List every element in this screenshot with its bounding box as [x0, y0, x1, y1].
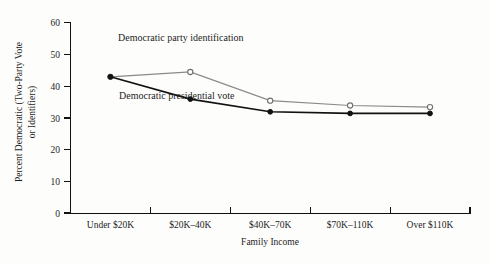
chart-figure: Percent Democratic (Two-Party Vote or Id… — [0, 0, 489, 265]
y-tick-label-50: 50 — [51, 50, 61, 60]
x-axis-category-labels: Under $20K $20K–40K $40K–70K $70K–110K O… — [87, 220, 454, 230]
series-label-presidential-vote: Democratic presidential vote — [119, 90, 235, 101]
x-tick-label-70k-110k: $70K–110K — [327, 220, 374, 230]
x-tick-label-over-110k: Over $110K — [407, 220, 454, 230]
data-point-party-id-4 — [427, 105, 432, 110]
y-tick-label-40: 40 — [51, 82, 61, 92]
y-tick-label-10: 10 — [51, 177, 61, 187]
x-axis-ticks — [71, 207, 471, 214]
y-axis-title-line1: Percent Democratic (Two-Party Vote — [14, 42, 25, 182]
x-tick-label-under-20k: Under $20K — [87, 220, 134, 230]
data-point-pres-vote-4 — [428, 111, 433, 116]
line-chart-canvas: Percent Democratic (Two-Party Vote or Id… — [0, 0, 489, 265]
y-tick-label-30: 30 — [51, 114, 61, 124]
data-point-pres-vote-0 — [108, 74, 113, 79]
y-axis-title-line2: or Identifiers) — [27, 86, 38, 139]
x-tick-label-40k-70k: $40K–70K — [249, 220, 291, 230]
y-axis-ticks: 60 50 40 30 20 10 0 — [51, 18, 71, 219]
data-point-party-id-3 — [348, 103, 353, 108]
x-axis-title: Family Income — [241, 237, 299, 247]
data-point-pres-vote-2 — [268, 109, 273, 114]
data-point-party-id-2 — [268, 98, 273, 103]
y-tick-label-0: 0 — [55, 209, 60, 219]
series-label-party-identification: Democratic party identification — [118, 32, 244, 43]
y-tick-label-60: 60 — [51, 18, 61, 28]
data-point-party-id-1 — [188, 69, 193, 74]
y-tick-label-20: 20 — [51, 145, 61, 155]
x-tick-label-20k-40k: $20K–40K — [169, 220, 211, 230]
data-point-pres-vote-3 — [348, 111, 353, 116]
